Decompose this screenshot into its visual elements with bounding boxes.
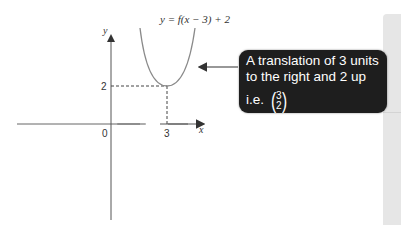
vector-paren-open: ( <box>271 90 276 112</box>
origin-label: 0 <box>102 128 108 139</box>
callout-line-3: i.e. ( 3 2 ) <box>246 86 288 108</box>
x-axis-label: x <box>198 124 204 135</box>
y-tick-label-2: 2 <box>101 81 107 92</box>
vector-paren-close: ) <box>282 90 287 112</box>
callout-ie-label: i.e. <box>246 92 264 107</box>
parabola-curve <box>140 28 195 86</box>
function-label: y = f(x − 3) + 2 <box>159 13 230 26</box>
y-axis-label: y <box>102 25 108 36</box>
vector-bottom: 2 <box>276 101 282 111</box>
translation-vector: ( 3 2 ) <box>270 90 288 112</box>
callout-line-1: A translation of 3 units <box>246 53 379 68</box>
x-tick-label-3: 3 <box>164 128 170 139</box>
callout-line-2: to the right and 2 up <box>246 69 366 84</box>
vector-column: 3 2 <box>276 91 282 111</box>
callout-box: A translation of 3 units to the right an… <box>239 50 387 113</box>
